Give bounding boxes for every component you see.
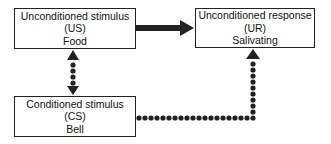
ur-example: Salivating [232, 34, 278, 47]
us-example: Food [63, 35, 87, 48]
ur-abbr: (UR) [244, 22, 266, 35]
unconditioned-stimulus-box: Unconditioned stimulus (US) Food [14, 8, 136, 49]
cs-abbr: (CS) [64, 110, 86, 123]
cs-title: Conditioned stimulus [26, 98, 123, 111]
us-abbr: (US) [64, 22, 86, 35]
cs-to-ur-dotted-arrow [136, 49, 260, 121]
cs-example: Bell [66, 123, 84, 136]
us-to-ur-arrow [136, 20, 194, 36]
unconditioned-response-box: Unconditioned response (UR) Salivating [195, 8, 315, 48]
us-title: Unconditioned stimulus [21, 10, 130, 23]
conditioned-stimulus-box: Conditioned stimulus (CS) Bell [14, 96, 136, 137]
us-cs-dotted-double-arrow [67, 50, 79, 95]
ur-title: Unconditioned response [198, 9, 311, 22]
